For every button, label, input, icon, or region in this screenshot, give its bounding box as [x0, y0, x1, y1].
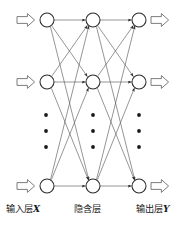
hidden-layer-caption: 隐含层 [74, 203, 101, 215]
input-layer-caption-symbol: X [33, 203, 40, 214]
hidden-ellipsis-dot [91, 113, 95, 117]
input-node [40, 13, 54, 27]
output-block-arrow-icon [151, 14, 169, 27]
output-block-arrow-icon [151, 180, 169, 193]
edge [52, 26, 87, 76]
output-ellipsis-dot [137, 113, 141, 117]
input-ellipsis-dot [44, 113, 48, 117]
hidden-node [86, 75, 100, 89]
output-ellipsis-dot [137, 129, 141, 133]
output-block-arrows [151, 14, 169, 193]
edge [98, 25, 133, 75]
network-graphic [0, 0, 190, 225]
input-node [40, 179, 54, 193]
ellipsis-dots [44, 113, 141, 149]
hidden-node [86, 179, 100, 193]
input-block-arrow-icon [17, 14, 35, 27]
input-ellipsis-dot [44, 145, 48, 149]
edges-hidden-output [97, 20, 135, 186]
output-layer-caption-symbol: Y [163, 203, 170, 214]
hidden-node [86, 13, 100, 27]
output-node [132, 75, 146, 89]
input-block-arrow-icon [17, 76, 35, 89]
input-layer-caption-text: 输入层 [6, 203, 33, 214]
input-node [40, 75, 54, 89]
output-block-arrow-icon [151, 76, 169, 89]
edge [52, 25, 87, 75]
input-block-arrow-icon [17, 180, 35, 193]
output-layer-caption: 输出层Y [136, 203, 170, 215]
input-block-arrows [17, 14, 35, 193]
neural-network-diagram: 输入层X 隐含层 输出层Y [0, 0, 190, 225]
output-node [132, 13, 146, 27]
hidden-ellipsis-dot [91, 129, 95, 133]
input-layer-caption: 输入层X [6, 203, 40, 215]
edges-input-hidden [51, 20, 89, 186]
output-node [132, 179, 146, 193]
input-ellipsis-dot [44, 129, 48, 133]
hidden-ellipsis-dot [91, 145, 95, 149]
output-layer-caption-text: 输出层 [136, 203, 163, 214]
edge [98, 26, 133, 76]
hidden-layer-caption-text: 隐含层 [74, 203, 101, 214]
nodes [40, 13, 146, 193]
output-ellipsis-dot [137, 145, 141, 149]
